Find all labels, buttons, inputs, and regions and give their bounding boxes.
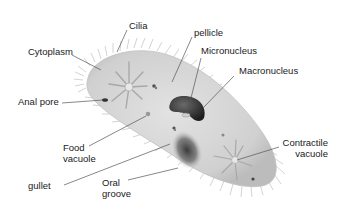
label-micronucleus: Micronucleus <box>201 45 257 56</box>
label-cytoplasm: Cytoplasm <box>28 46 73 57</box>
label-gullet: gullet <box>28 180 51 191</box>
label-food-vacuole-line2: vacuole <box>63 153 96 164</box>
micronucleus <box>182 113 190 117</box>
label-contractile-vacuole-line1: Contractile <box>272 137 328 148</box>
label-cilia: Cilia <box>129 20 147 31</box>
paramecium-diagram: Cilia Cytoplasm Anal pore Food vacuole g… <box>0 0 338 222</box>
label-anal-pore: Anal pore <box>18 96 59 107</box>
food-vacuole <box>146 112 151 117</box>
label-macronucleus: Macronucleus <box>239 65 298 76</box>
label-pellicle: pellicle <box>194 27 223 38</box>
label-contractile-vacuole-line2: vacuole <box>272 148 328 159</box>
label-food-vacuole-line1: Food <box>63 142 85 153</box>
label-oral-groove-line1: Oral <box>102 177 120 188</box>
label-oral-groove-line2: groove <box>102 188 131 199</box>
